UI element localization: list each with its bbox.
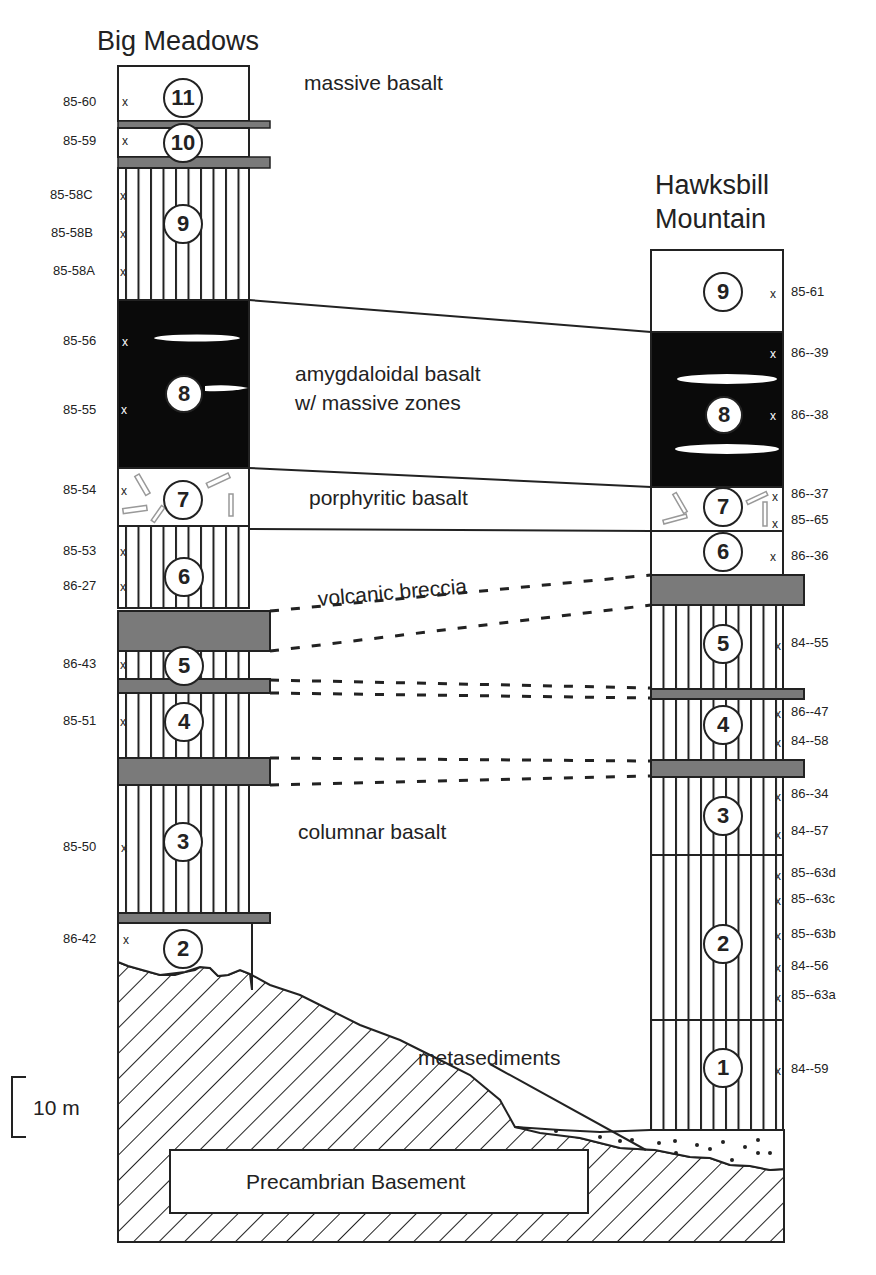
hm-unit-6: 6: [703, 532, 743, 572]
hm-unit-9: 9: [703, 272, 743, 312]
sample-marker: x: [770, 410, 776, 422]
sample-label: 85-59: [63, 134, 96, 148]
sample-label: 84--57: [791, 824, 829, 838]
scale-bar-label: 10 m: [33, 1096, 80, 1120]
hm-unit-3: 3: [703, 796, 743, 836]
sample-marker: x: [775, 829, 781, 841]
sample-marker: x: [770, 288, 776, 300]
sample-marker: x: [122, 96, 128, 108]
sample-marker: x: [123, 934, 129, 946]
sample-marker: x: [121, 485, 127, 497]
hm-unit-4: 4: [703, 705, 743, 745]
sample-label: 85-54: [63, 483, 96, 497]
sample-marker: x: [121, 842, 127, 854]
sample-marker: x: [772, 491, 778, 503]
sample-marker: x: [775, 791, 781, 803]
sample-label: 85-51: [63, 714, 96, 728]
hawksbill-title-line2: Mountain: [655, 204, 766, 235]
sample-marker: x: [770, 551, 776, 563]
sample-marker: x: [775, 930, 781, 942]
sample-label: 85--63b: [791, 927, 836, 941]
hm-unit-5: 5: [703, 624, 743, 664]
sample-marker: x: [775, 640, 781, 652]
hm-unit-1: 1: [703, 1048, 743, 1088]
sample-marker: x: [770, 348, 776, 360]
bm-unit-3: 3: [163, 822, 203, 862]
sample-label: 85-55: [63, 403, 96, 417]
sample-label: 85-58A: [53, 264, 95, 278]
hm-unit-2: 2: [703, 924, 743, 964]
label-amygdaloidal-line1: amygdaloidal basalt: [295, 362, 481, 386]
bm-unit-6: 6: [164, 557, 204, 597]
sample-marker: x: [122, 135, 128, 147]
sample-label: 86--39: [791, 346, 829, 360]
bm-unit-10: 10: [163, 123, 203, 163]
bm-unit-8: 8: [165, 375, 203, 413]
sample-label: 84--59: [791, 1062, 829, 1076]
label-columnar-basalt: columnar basalt: [298, 820, 446, 844]
bm-unit-9: 9: [163, 204, 203, 244]
sample-label: 84--55: [791, 636, 829, 650]
sample-marker: x: [775, 992, 781, 1004]
sample-label: 85-61: [791, 285, 824, 299]
hawksbill-title-line1: Hawksbill: [655, 170, 769, 201]
bm-unit-2: 2: [163, 929, 203, 969]
sample-marker: x: [120, 266, 126, 278]
label-metasediments: metasediments: [418, 1046, 560, 1070]
sample-label: 85--65: [791, 513, 829, 527]
bm-unit-5: 5: [164, 646, 204, 686]
hm-unit-8: 8: [705, 396, 743, 434]
sample-label: 85-53: [63, 544, 96, 558]
sample-marker: x: [120, 228, 126, 240]
bm-unit-4: 4: [164, 702, 204, 742]
sample-marker: x: [775, 895, 781, 907]
big-meadows-title: Big Meadows: [97, 26, 259, 57]
sample-marker: x: [775, 708, 781, 720]
sample-label: 85-58C: [50, 188, 93, 202]
sample-label: 86--34: [791, 787, 829, 801]
sample-marker: x: [120, 659, 126, 671]
sample-marker: x: [120, 190, 126, 202]
sample-marker: x: [120, 581, 126, 593]
sample-label: 85--63d: [791, 866, 836, 880]
label-amygdaloidal-line2: w/ massive zones: [295, 391, 461, 415]
bm-unit-7: 7: [163, 480, 203, 520]
sample-label: 86-43: [63, 657, 96, 671]
sample-marker: x: [775, 737, 781, 749]
sample-marker: x: [772, 518, 778, 530]
sample-label: 84--58: [791, 734, 829, 748]
sample-label: 86--38: [791, 408, 829, 422]
scale-bar-bracket: [12, 1077, 26, 1137]
sample-marker: x: [121, 404, 127, 416]
sample-label: 86-27: [63, 579, 96, 593]
sample-marker: x: [122, 336, 128, 348]
sample-label: 85-58B: [51, 226, 93, 240]
hm-unit-7: 7: [703, 487, 743, 527]
hawksbill-column: [651, 250, 804, 1130]
label-massive-basalt: massive basalt: [304, 71, 443, 95]
sample-label: 86--36: [791, 549, 829, 563]
bm-unit-11: 11: [163, 78, 203, 118]
sample-marker: x: [120, 716, 126, 728]
sample-marker: x: [120, 546, 126, 558]
sample-marker: x: [775, 870, 781, 882]
sample-marker: x: [775, 962, 781, 974]
sample-label: 85-60: [63, 95, 96, 109]
sample-label: 85-56: [63, 334, 96, 348]
sample-label: 86--37: [791, 487, 829, 501]
sample-label: 86--47: [791, 705, 829, 719]
sample-label: 85-50: [63, 840, 96, 854]
sample-label: 85--63a: [791, 988, 836, 1002]
sample-label: 84--56: [791, 959, 829, 973]
sample-label: 86-42: [63, 932, 96, 946]
sample-marker: x: [775, 1065, 781, 1077]
sample-label: 85--63c: [791, 892, 835, 906]
label-porphyritic-basalt: porphyritic basalt: [309, 486, 468, 510]
label-precambrian-basement: Precambrian Basement: [246, 1170, 465, 1194]
